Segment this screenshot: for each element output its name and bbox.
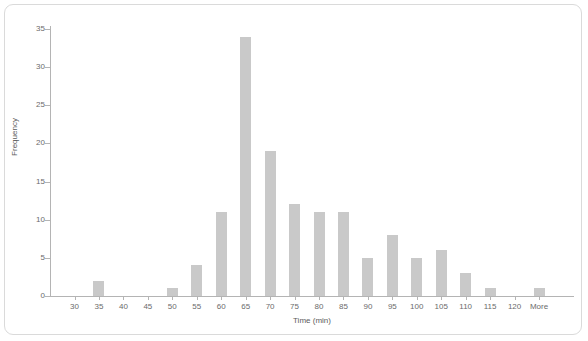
- histogram-bar: [362, 258, 373, 296]
- x-axis-tick: [246, 296, 247, 300]
- y-axis-tick-label: 30: [21, 63, 45, 71]
- histogram-bar: [314, 212, 325, 296]
- y-axis-tick-label: 25: [21, 101, 45, 109]
- x-axis-tick-label: More: [519, 303, 559, 311]
- x-axis-tick: [221, 296, 222, 300]
- histogram-bar: [411, 258, 422, 296]
- histogram-bar: [240, 37, 251, 296]
- histogram-bar: [289, 204, 300, 296]
- x-axis-tick: [123, 296, 124, 300]
- histogram-bar: [167, 288, 178, 296]
- histogram-bar: [191, 265, 202, 296]
- x-axis-tick: [515, 296, 516, 300]
- x-axis-tick: [441, 296, 442, 300]
- y-axis-tick-label: 0: [21, 292, 45, 300]
- x-axis-tick: [319, 296, 320, 300]
- x-axis-tick: [270, 296, 271, 300]
- x-axis-tick: [392, 296, 393, 300]
- histogram-plot-area: 05101520253035 3035404550556065707580859…: [0, 0, 588, 341]
- x-axis-tick: [417, 296, 418, 300]
- histogram-bar: [387, 235, 398, 296]
- x-axis-tick: [295, 296, 296, 300]
- y-axis-tick-label: 15: [21, 178, 45, 186]
- histogram-bar: [338, 212, 349, 296]
- y-axis-line: [50, 26, 51, 297]
- y-axis-tick-label: 35: [21, 25, 45, 33]
- x-axis-tick: [172, 296, 173, 300]
- histogram-bar: [485, 288, 496, 296]
- histogram-bar: [93, 281, 104, 296]
- histogram-bar: [534, 288, 545, 296]
- x-axis-tick: [368, 296, 369, 300]
- y-axis-tick: [45, 296, 50, 297]
- x-axis-tick: [148, 296, 149, 300]
- y-axis-title: Frequency: [11, 97, 19, 177]
- y-axis-tick-label: 10: [21, 216, 45, 224]
- x-axis-line: [50, 296, 574, 297]
- y-axis-tick: [45, 105, 50, 106]
- x-axis-tick: [466, 296, 467, 300]
- y-axis-tick: [45, 220, 50, 221]
- histogram-bar: [216, 212, 227, 296]
- y-axis-tick-label: 20: [21, 139, 45, 147]
- x-axis-tick: [343, 296, 344, 300]
- y-axis-tick: [45, 258, 50, 259]
- x-axis-tick: [99, 296, 100, 300]
- y-axis-tick: [45, 143, 50, 144]
- histogram-bar: [436, 250, 447, 296]
- x-axis-tick: [75, 296, 76, 300]
- x-axis-tick: [539, 296, 540, 300]
- y-axis-tick: [45, 29, 50, 30]
- x-axis-tick: [490, 296, 491, 300]
- x-axis-title: Time (min): [50, 317, 574, 325]
- y-axis-tick: [45, 67, 50, 68]
- y-axis-tick-label: 5: [21, 254, 45, 262]
- y-axis-tick: [45, 182, 50, 183]
- histogram-bar: [460, 273, 471, 296]
- x-axis-tick: [197, 296, 198, 300]
- histogram-bar: [265, 151, 276, 296]
